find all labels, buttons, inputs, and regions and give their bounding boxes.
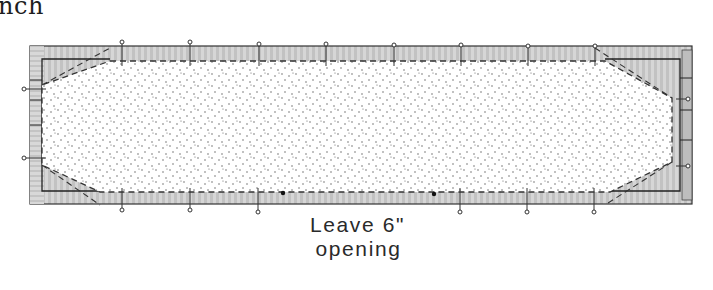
batting-layer — [42, 48, 672, 205]
opening-markers — [281, 190, 436, 196]
dot-marker-icon — [281, 191, 285, 195]
dot-marker-icon — [432, 192, 436, 196]
opening-label-line1: Leave 6" — [1, 213, 713, 237]
opening-label-line2: opening — [2, 237, 713, 261]
